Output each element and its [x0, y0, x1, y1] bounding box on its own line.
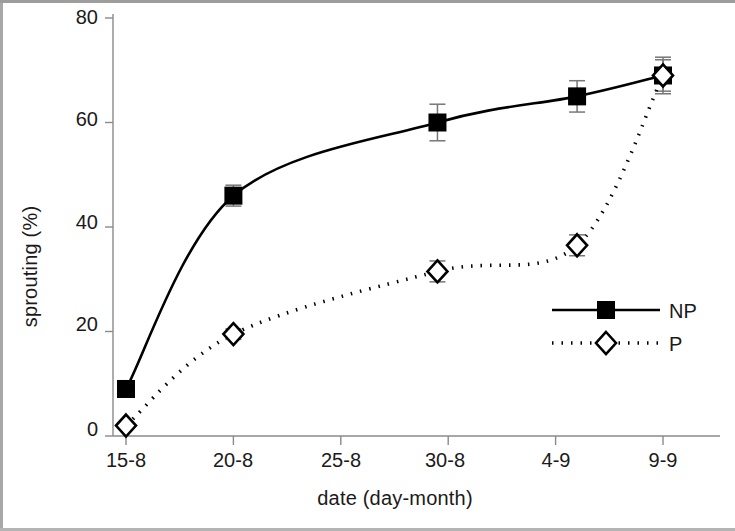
marker-filled-square	[428, 114, 446, 132]
legend-swatch-p	[552, 332, 660, 354]
marker-filled-square	[117, 380, 135, 398]
x-axis-title: date (day-month)	[230, 487, 560, 510]
y-axis-title: sprouting (%)	[19, 157, 42, 377]
y-tick-label-40: 40	[38, 211, 98, 234]
x-tick-label-15-8: 15-8	[81, 449, 171, 472]
marker-filled-square	[568, 87, 586, 105]
series-np	[117, 60, 672, 398]
series-p	[116, 57, 673, 436]
marker-open-diamond	[567, 234, 587, 256]
series-line-np	[126, 75, 663, 389]
y-tick-label-0: 0	[38, 418, 98, 441]
marker-open-diamond	[223, 323, 243, 345]
x-tick-label-20-8: 20-8	[188, 449, 278, 472]
legend-label-np: NP	[669, 300, 697, 323]
y-tick-label-60: 60	[38, 108, 98, 131]
legend-marker-np	[597, 301, 615, 319]
legend-label-p: P	[669, 333, 682, 356]
legend-marker-p	[596, 332, 616, 354]
marker-open-diamond	[427, 260, 447, 282]
legend-swatch-np	[552, 301, 660, 319]
marker-filled-square	[224, 187, 242, 205]
x-tick-label-9-9: 9-9	[618, 449, 708, 472]
y-tick-label-80: 80	[38, 6, 98, 29]
chart-figure: 80 60 40 20 0 15-8 20-8 25-8 30-8 4-9 9-…	[0, 0, 735, 531]
x-tick-label-25-8: 25-8	[296, 449, 386, 472]
y-tick-label-20: 20	[38, 313, 98, 336]
x-tick-label-4-9: 4-9	[511, 449, 601, 472]
x-tick-label-30-8: 30-8	[400, 449, 490, 472]
